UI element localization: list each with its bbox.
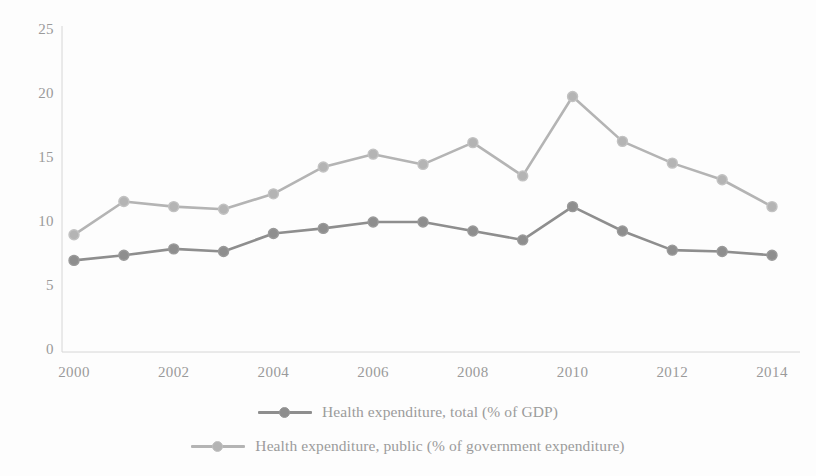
data-point-marker[interactable] xyxy=(717,246,727,256)
data-point-marker[interactable] xyxy=(767,202,777,212)
data-point-marker[interactable] xyxy=(568,202,578,212)
data-point-marker[interactable] xyxy=(69,255,79,265)
data-point-marker[interactable] xyxy=(617,226,627,236)
data-point-marker[interactable] xyxy=(468,226,478,236)
data-point-marker[interactable] xyxy=(667,245,677,255)
data-point-marker[interactable] xyxy=(568,92,578,102)
legend-marker-total-icon xyxy=(258,405,312,419)
data-point-marker[interactable] xyxy=(268,229,278,239)
x-tick-label: 2002 xyxy=(139,364,209,381)
x-tick-label: 2014 xyxy=(737,364,807,381)
x-tick-label: 2006 xyxy=(338,364,408,381)
data-point-marker[interactable] xyxy=(119,250,129,260)
data-point-marker[interactable] xyxy=(617,136,627,146)
data-point-marker[interactable] xyxy=(219,246,229,256)
data-point-marker[interactable] xyxy=(169,202,179,212)
plot-area: 0510152025 20002002200420062008201020122… xyxy=(0,0,816,395)
data-point-marker[interactable] xyxy=(368,149,378,159)
y-tick-label: 10 xyxy=(14,213,54,230)
data-point-marker[interactable] xyxy=(169,244,179,254)
legend-marker-public-icon xyxy=(191,439,245,453)
chart-legend: Health expenditure, total (% of GDP) Hea… xyxy=(0,398,816,460)
x-tick-label: 2008 xyxy=(438,364,508,381)
data-point-marker[interactable] xyxy=(219,204,229,214)
legend-item-public[interactable]: Health expenditure, public (% of governm… xyxy=(191,432,624,460)
legend-item-total[interactable]: Health expenditure, total (% of GDP) xyxy=(258,398,558,426)
plot-svg xyxy=(0,0,816,395)
x-tick-label: 2000 xyxy=(39,364,109,381)
data-point-marker[interactable] xyxy=(268,189,278,199)
data-point-marker[interactable] xyxy=(667,158,677,168)
data-point-marker[interactable] xyxy=(767,250,777,260)
x-tick-label: 2012 xyxy=(637,364,707,381)
data-point-marker[interactable] xyxy=(318,162,328,172)
y-tick-label: 0 xyxy=(14,341,54,358)
axis-lines xyxy=(62,26,800,352)
y-tick-label: 20 xyxy=(14,85,54,102)
x-tick-label: 2010 xyxy=(538,364,608,381)
data-point-marker[interactable] xyxy=(318,223,328,233)
legend-label-public: Health expenditure, public (% of governm… xyxy=(255,437,624,455)
x-tick-label: 2004 xyxy=(238,364,308,381)
data-point-marker[interactable] xyxy=(119,197,129,207)
y-tick-label: 25 xyxy=(14,21,54,38)
series-group xyxy=(69,92,777,266)
data-point-marker[interactable] xyxy=(368,217,378,227)
data-point-marker[interactable] xyxy=(717,175,727,185)
data-point-marker[interactable] xyxy=(518,171,528,181)
data-point-marker[interactable] xyxy=(518,235,528,245)
y-tick-label: 15 xyxy=(14,149,54,166)
legend-label-total: Health expenditure, total (% of GDP) xyxy=(322,403,558,421)
data-point-marker[interactable] xyxy=(69,230,79,240)
line-chart: 0510152025 20002002200420062008201020122… xyxy=(0,0,816,476)
data-point-marker[interactable] xyxy=(418,159,428,169)
data-point-marker[interactable] xyxy=(468,138,478,148)
data-point-marker[interactable] xyxy=(418,217,428,227)
y-tick-label: 5 xyxy=(14,277,54,294)
